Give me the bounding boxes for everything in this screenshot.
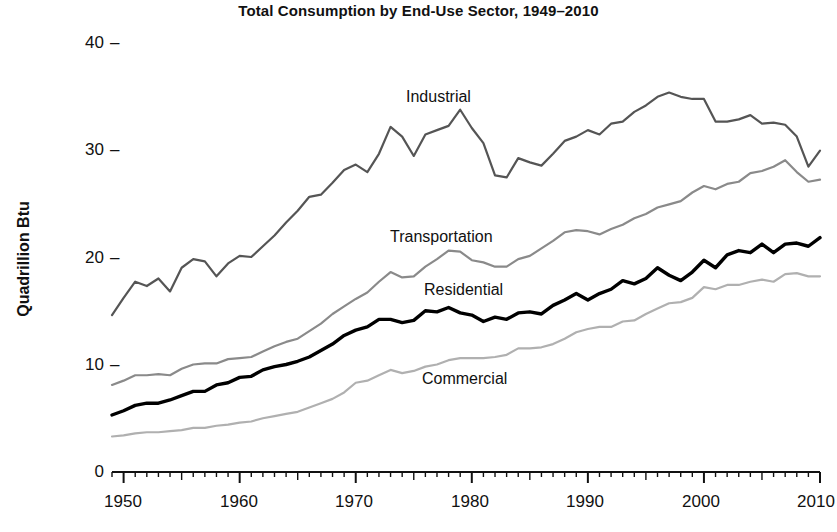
chart-container: Total Consumption by End-Use Sector, 194… xyxy=(0,0,837,532)
series-label-residential: Residential xyxy=(424,281,503,299)
series-line-residential xyxy=(112,238,820,415)
series-line-transportation xyxy=(112,160,820,385)
series-label-transportation: Transportation xyxy=(390,228,493,246)
series-label-commercial: Commercial xyxy=(422,370,507,388)
plot-area xyxy=(0,0,837,532)
series-label-industrial: Industrial xyxy=(406,88,471,106)
x-axis xyxy=(112,472,820,483)
